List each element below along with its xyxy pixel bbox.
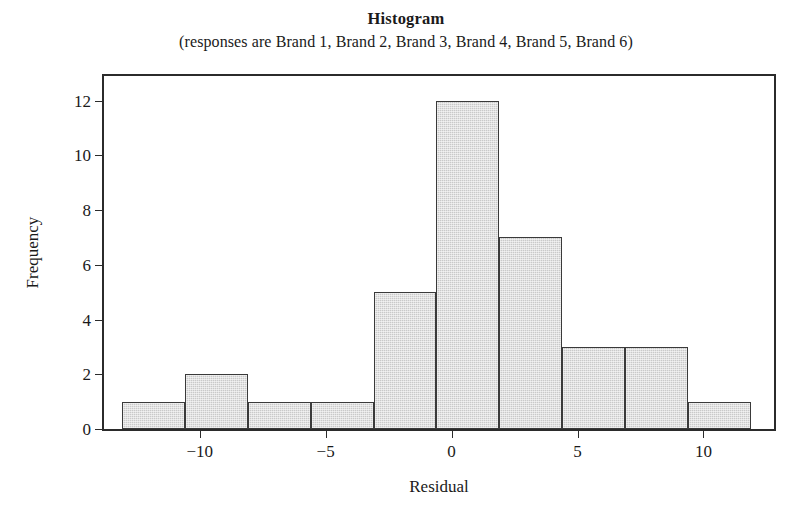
y-tick-label: 0 [83,421,92,438]
chart-subtitle: (responses are Brand 1, Brand 2, Brand 3… [0,30,812,54]
y-tick-mark [95,265,104,266]
y-tick-mark [95,429,104,430]
x-tick-label: 0 [447,443,456,460]
y-axis-label: Frequency [22,74,44,431]
x-tick-mark [326,429,327,438]
chart-title: Histogram [0,8,812,30]
histogram-bar [499,237,562,429]
y-tick-label: 12 [74,92,91,109]
x-tick-label: 10 [695,443,712,460]
x-tick-mark [452,429,453,438]
title-block: Histogram (responses are Brand 1, Brand … [0,8,812,54]
histogram-figure: Histogram (responses are Brand 1, Brand … [0,0,812,511]
y-tick-label: 8 [83,202,92,219]
y-tick-mark [95,210,104,211]
histogram-bar [625,347,688,429]
y-tick-label: 4 [83,311,92,328]
histogram-bar [374,292,437,429]
histogram-bar [185,374,248,429]
histogram-bar [122,402,185,429]
x-tick-label: 5 [573,443,582,460]
histogram-bar [311,402,374,429]
y-tick-label: 6 [83,256,92,273]
histogram-bar [562,347,625,429]
x-tick-label: −5 [317,443,335,460]
y-tick-mark [95,101,104,102]
x-axis-label: Residual [102,477,776,497]
x-tick-mark [200,429,201,438]
y-tick-label: 2 [83,366,92,383]
y-tick-mark [95,320,104,321]
y-tick-label: 10 [74,147,91,164]
histogram-bar [688,402,751,429]
y-tick-mark [95,155,104,156]
bars-layer [104,76,774,429]
histogram-bar [436,101,499,429]
x-tick-mark [703,429,704,438]
x-tick-label: −10 [186,443,213,460]
histogram-bar [248,402,311,429]
x-tick-mark [578,429,579,438]
plot-area: 024681012 −10−50510 [102,74,776,431]
y-tick-mark [95,374,104,375]
